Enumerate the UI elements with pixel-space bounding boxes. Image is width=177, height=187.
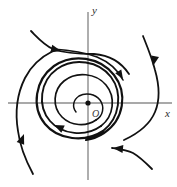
direction-arrow-lower-right	[113, 144, 124, 153]
trajectory-outer-left	[17, 51, 53, 174]
y-axis-label: y	[91, 4, 97, 16]
x-axis-label: x	[164, 107, 170, 119]
trajectory-limit-cycle	[37, 58, 123, 140]
origin-label: O	[92, 108, 99, 119]
trajectory-outer-lower-right	[112, 148, 152, 169]
axes-group	[8, 12, 172, 180]
origin-point	[85, 100, 90, 105]
trajectory-inner-spiral-outward	[55, 75, 112, 126]
phase-portrait-canvas: y x O	[0, 0, 177, 187]
phase-portrait-figure: y x O	[0, 0, 177, 187]
trajectory-outer-right	[124, 36, 159, 140]
trajectory-limit-cycle-approach	[42, 62, 118, 133]
